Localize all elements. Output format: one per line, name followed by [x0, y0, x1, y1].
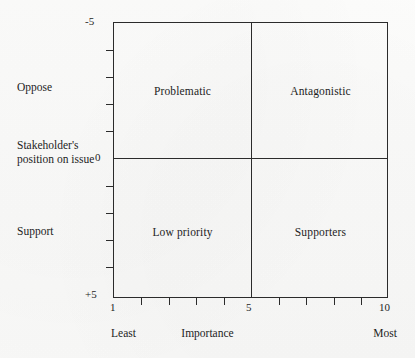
x-axis-tick [196, 297, 197, 305]
quadrant-label-problematic: Problematic [114, 85, 251, 97]
y-axis-tick [106, 50, 114, 51]
y-axis-tick [106, 77, 114, 78]
x-axis-tick [224, 297, 225, 305]
y-axis-label-plus-5: +5 [85, 288, 97, 300]
y-axis-tick [106, 213, 114, 214]
quadrant-label-supporters: Supporters [252, 226, 389, 238]
y-axis-label-zero: 0 [95, 151, 101, 163]
x-axis-label-most: Most [373, 327, 397, 339]
x-axis-label-5: 5 [246, 301, 252, 313]
y-axis-tick [106, 267, 114, 268]
y-axis-tick [106, 186, 114, 187]
y-axis-label-minus-5: -5 [85, 15, 94, 27]
x-axis-tick [306, 297, 307, 305]
y-axis-label-support: Support [17, 225, 53, 239]
y-axis-title-stakeholder-position: Stakeholder's position on issue [17, 139, 95, 166]
x-axis-label-1: 1 [110, 301, 116, 313]
y-axis-tick [106, 240, 114, 241]
x-axis-tick [141, 297, 142, 305]
horizontal-divider-line [114, 158, 387, 159]
x-axis-tick [279, 297, 280, 305]
quadrant-label-low-priority: Low priority [114, 226, 251, 238]
y-axis-tick [106, 104, 114, 105]
x-axis-title-importance: Importance [0, 327, 415, 339]
plot-area: Problematic Antagonistic Low priority Su… [113, 22, 388, 298]
chart-page: Problematic Antagonistic Low priority Su… [0, 0, 415, 358]
vertical-divider-line [251, 23, 252, 297]
x-axis-tick [361, 297, 362, 305]
x-axis-tick [169, 297, 170, 305]
y-axis-label-oppose: Oppose [17, 81, 52, 95]
x-axis-label-10: 10 [379, 301, 390, 313]
quadrant-label-antagonistic: Antagonistic [252, 85, 389, 97]
y-axis-tick [106, 131, 114, 132]
x-axis-tick [334, 297, 335, 305]
